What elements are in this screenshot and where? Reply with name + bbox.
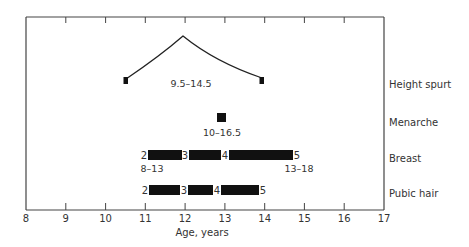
pubic-stage-5: 5 [260,185,266,196]
breast-bar-3-4 [189,150,221,160]
tick-label-12: 12 [179,213,192,224]
height-spurt-end-marker [260,77,265,84]
tick-label-14: 14 [258,213,271,224]
pubic-bar-4-5 [221,185,259,195]
tick-label-10: 10 [99,213,112,224]
breast-end-range: 13–18 [285,163,314,174]
row-label-breast: Breast [389,153,421,164]
row-label-pubic-hair: Pubic hair [389,188,439,199]
breast-stage-3: 3 [182,150,188,161]
height-spurt-range: 9.5–14.5 [170,78,211,89]
tick-label-13: 13 [219,213,232,224]
row-label-menarche: Menarche [389,117,438,128]
puberty-timeline-diagram: 8 9 10 11 12 13 14 15 16 17 Age, years 9… [0,0,469,247]
pubic-stage-3: 3 [181,185,187,196]
breast-bars: 2 3 4 5 [141,150,300,161]
pubic-hair-bars: 2 3 4 5 [142,185,266,196]
pubic-stage-4: 4 [214,185,220,196]
tick-label-11: 11 [139,213,152,224]
pubic-bar-2-3 [149,185,180,195]
x-axis-title: Age, years [175,227,228,238]
x-tick-labels: 8 9 10 11 12 13 14 15 16 17 [23,213,391,224]
pubic-bar-3-4 [188,185,213,195]
row-labels: Height spurt Menarche Breast Pubic hair [389,79,451,199]
breast-bar-4-5 [229,150,293,160]
menarche-marker [217,113,226,122]
breast-stage-4: 4 [222,150,228,161]
breast-stage-2: 2 [141,150,147,161]
tick-label-15: 15 [298,213,311,224]
tick-label-16: 16 [338,213,351,224]
tick-label-9: 9 [63,213,69,224]
menarche-range: 10–16.5 [203,127,241,138]
breast-start-range: 8–13 [141,163,164,174]
tick-label-8: 8 [23,213,29,224]
top-ticks [66,17,344,23]
height-spurt-start-marker [124,77,129,84]
plot-frame [26,17,384,210]
tick-label-17: 17 [378,213,391,224]
bottom-ticks [66,203,344,210]
breast-stage-5: 5 [294,150,300,161]
row-label-height-spurt: Height spurt [389,79,451,90]
height-spurt-curve [124,36,265,84]
breast-bar-2-3 [148,150,182,160]
pubic-stage-2: 2 [142,185,148,196]
